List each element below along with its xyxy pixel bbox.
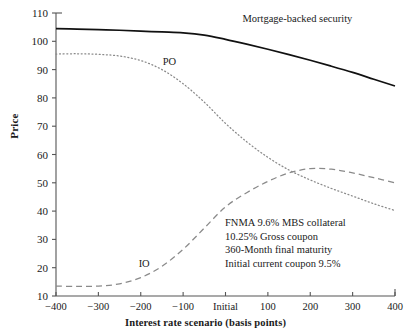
- chart-annotation-block: FNMA 9.6% MBS collateral10.25% Gross cou…: [225, 216, 346, 270]
- annotation-line: FNMA 9.6% MBS collateral: [225, 216, 346, 230]
- series-label-io: IO: [139, 258, 150, 269]
- x-tick-label: 400: [387, 301, 403, 312]
- x-tick-label: −400: [45, 301, 67, 312]
- x-tick-label: −300: [88, 301, 110, 312]
- y-tick-label: 50: [20, 178, 48, 188]
- x-tick-label: 300: [345, 301, 361, 312]
- y-tick-label: 60: [20, 150, 48, 160]
- series-label-po: PO: [163, 56, 176, 67]
- x-tick-label: 200: [302, 301, 318, 312]
- chart-canvas: [0, 0, 411, 335]
- series-line-mortgage-backed-security: [56, 29, 395, 86]
- y-tick-label: 80: [20, 93, 48, 103]
- chart-figure: Price Interest rate scenario (basis poin…: [0, 0, 411, 335]
- y-tick-label: 90: [20, 65, 48, 75]
- y-tick-label: 110: [20, 8, 48, 18]
- series-line-po: [56, 54, 395, 211]
- x-tick-label: −100: [172, 301, 194, 312]
- annotation-line: 360-Month final maturity: [225, 243, 346, 257]
- y-tick-label: 20: [20, 263, 48, 273]
- annotation-line: 10.25% Gross coupon: [225, 230, 346, 244]
- annotation-line: Initial current coupon 9.5%: [225, 257, 346, 271]
- x-axis-label: Interest rate scenario (basis points): [0, 317, 411, 328]
- x-tick-label: Initial: [213, 301, 238, 312]
- y-tick-label: 100: [20, 36, 48, 46]
- y-axis-label: Price: [8, 96, 20, 156]
- x-tick-label: −200: [130, 301, 152, 312]
- y-tick-label: 70: [20, 121, 48, 131]
- y-tick-label: 30: [20, 234, 48, 244]
- series-label-mortgage-backed-security: Mortgage-backed security: [242, 13, 352, 24]
- x-tick-label: 100: [260, 301, 276, 312]
- y-tick-label: 40: [20, 206, 48, 216]
- y-tick-label: 10: [20, 291, 48, 301]
